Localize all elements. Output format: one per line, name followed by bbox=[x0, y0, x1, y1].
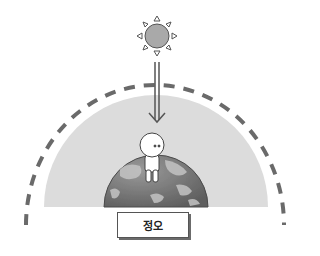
sun-icon bbox=[137, 16, 177, 56]
noon-label: 정오 bbox=[117, 212, 189, 238]
